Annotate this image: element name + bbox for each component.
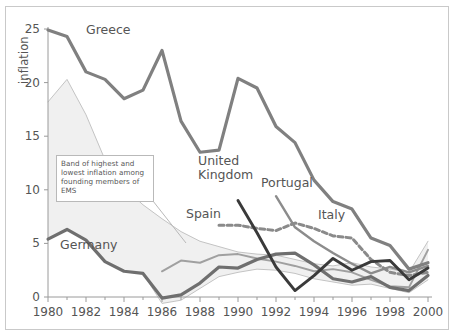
y-tick-label: 20 xyxy=(25,76,40,90)
band-annotation-text: Band of highest and lowest inflation amo… xyxy=(61,159,149,195)
label-germany: Germany xyxy=(60,237,118,252)
y-tick-label: 5 xyxy=(32,236,40,250)
label-united-kingdom: Kingdom xyxy=(198,167,253,182)
x-tick-label: 1984 xyxy=(109,305,140,319)
y-tick-label: 10 xyxy=(25,183,40,197)
label-greece: Greece xyxy=(86,22,131,37)
x-tick-label: 1990 xyxy=(223,305,254,319)
label-portugal: Portugal xyxy=(261,175,313,190)
x-tick-label: 1986 xyxy=(147,305,178,319)
label-italy: Italy xyxy=(318,207,346,222)
label-united-kingdom: United xyxy=(198,153,239,168)
x-tick-label: 1982 xyxy=(71,305,102,319)
chart-figure: inflation 051015202519801982198419861988… xyxy=(0,0,454,336)
x-tick-label: 1988 xyxy=(185,305,216,319)
x-tick-label: 1996 xyxy=(337,305,368,319)
y-tick-label: 25 xyxy=(25,22,40,36)
label-spain: Spain xyxy=(186,206,221,221)
x-tick-label: 1992 xyxy=(261,305,292,319)
x-tick-label: 1994 xyxy=(299,305,330,319)
x-tick-label: 2000 xyxy=(413,305,444,319)
band-annotation-box: Band of highest and lowest inflation amo… xyxy=(56,155,154,202)
x-tick-label: 1980 xyxy=(33,305,64,319)
y-tick-label: 0 xyxy=(32,290,40,304)
y-tick-label: 15 xyxy=(25,129,40,143)
x-tick-label: 1998 xyxy=(375,305,406,319)
